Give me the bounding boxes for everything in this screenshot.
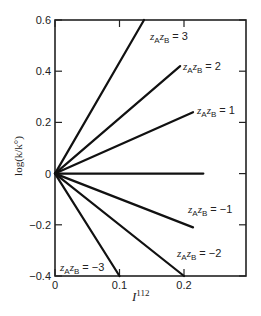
series-line: [55, 174, 193, 228]
x-tick-label: 0.1: [112, 279, 127, 291]
x-tick-label: 0: [52, 279, 58, 291]
y-tick-label: −0.2: [29, 219, 51, 231]
y-tick-label: −0.4: [29, 270, 51, 282]
y-tick-label: 0.2: [36, 116, 51, 128]
x-axis-label: I112: [131, 288, 150, 304]
y-axis-label: log(k/k°): [12, 136, 25, 176]
series-label: zAzB = −1: [187, 203, 232, 218]
y-tick-label: 0.4: [36, 65, 51, 77]
series-label: zAzB = −3: [59, 261, 104, 276]
y-tick-label: 0.6: [36, 14, 51, 26]
series-line: [55, 112, 193, 173]
series-label: zAzB = −2: [176, 247, 221, 262]
series-line: [55, 20, 144, 174]
series-label: zAzB = 2: [182, 60, 221, 75]
series-line: [55, 174, 184, 276]
chart: 0.60.40.20−0.2−0.400.10.2zAzB = 3zAzB = …: [0, 0, 261, 316]
plot-area: 0.60.40.20−0.2−0.400.10.2zAzB = 3zAzB = …: [12, 14, 246, 304]
series-label: zAzB = 3: [149, 30, 188, 45]
x-tick-label: 0.2: [176, 279, 191, 291]
series-line: [55, 66, 180, 174]
series-label: zAzB = 1: [196, 104, 235, 119]
y-tick-label: 0: [45, 168, 51, 180]
